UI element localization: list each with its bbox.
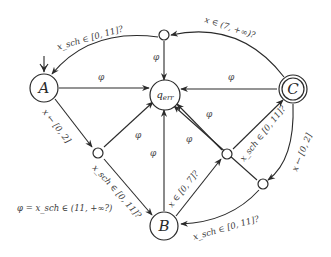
label-c-to-m3: x ← [0, 2] <box>290 131 315 173</box>
phi-a-qerr: φ <box>98 72 105 82</box>
node-m3 <box>258 179 268 189</box>
node-b: B <box>150 212 178 240</box>
label-b-to-m2: x ∈ [0, 7]? <box>166 168 201 209</box>
phi-c-qerr: φ <box>228 72 235 82</box>
phi-m1-qerr: φ <box>135 130 142 140</box>
node-m2 <box>222 149 232 159</box>
svg-text:C: C <box>287 80 299 98</box>
phi-m3-qerr: φ <box>206 109 213 119</box>
edge-m1-to-qerr <box>104 102 153 147</box>
edge-c-to-t1 <box>171 32 284 77</box>
phi-m2-qerr: φ <box>186 134 193 144</box>
label-m2-to-c: x_sch ∈ [0, 11]? <box>238 103 289 164</box>
svg-text:B: B <box>157 217 169 235</box>
phi-definition: φ = x_sch ∈ (11, +∞?) <box>17 203 112 214</box>
node-a: A <box>30 74 58 102</box>
node-t1 <box>159 30 169 40</box>
node-m1 <box>93 148 103 158</box>
node-c: C <box>279 75 307 103</box>
initial-arrow <box>40 56 48 72</box>
label-a-to-m1: x ← [0, 2] <box>40 107 73 145</box>
node-q-err: qerr <box>150 80 180 110</box>
phi-b-qerr: φ <box>150 148 157 158</box>
automaton-diagram: A qerr C B x_sch ∈ [0, 11]? x ∈ (7, +∞)?… <box>0 0 331 257</box>
label-m3-to-b: x_sch ∈ [0, 11]? <box>192 213 261 242</box>
svg-text:A: A <box>37 79 50 97</box>
label-t1-to-a: x_sch ∈ [0, 11]? <box>56 23 125 52</box>
phi-t1-qerr: φ <box>153 52 160 62</box>
